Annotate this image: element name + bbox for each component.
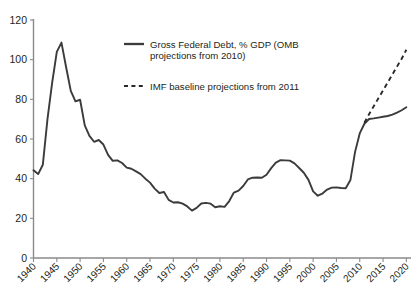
x-axis-tick-label: 1975 <box>178 260 202 284</box>
x-axis-tick-label: 1995 <box>271 260 295 284</box>
chart-legend: Gross Federal Debt, % GDP (OMBprojection… <box>124 39 299 92</box>
x-axis-tick-label: 1945 <box>38 260 62 284</box>
legend-label-gross-federal-debt-line2: projections from 2010) <box>150 50 245 61</box>
series-line-gross-federal-debt <box>34 43 407 211</box>
x-axis-tick-label: 1980 <box>201 260 225 284</box>
legend-label-imf-projection: IMF baseline projections from 2011 <box>150 81 299 92</box>
y-axis-tick-label: 120 <box>9 14 27 26</box>
x-axis-tick-label: 1940 <box>15 260 39 284</box>
x-axis-tick-label: 1985 <box>224 260 248 284</box>
x-axis-tick-label: 2000 <box>294 260 318 284</box>
series-group <box>34 43 407 211</box>
legend-label-gross-federal-debt: Gross Federal Debt, % GDP (OMB <box>150 39 299 50</box>
chart-container: 020406080100120 194019451950195519601965… <box>0 0 417 296</box>
y-axis: 020406080100120 <box>9 14 33 264</box>
x-axis-tick-label: 2015 <box>364 260 388 284</box>
y-axis-tick-label: 0 <box>21 252 27 264</box>
line-chart: 020406080100120 194019451950195519601965… <box>0 0 417 296</box>
x-axis-tick-label: 2010 <box>341 260 365 284</box>
y-axis-tick-label: 20 <box>15 212 27 224</box>
x-axis: 1940194519501955196019651970197519801985… <box>15 258 412 284</box>
y-axis-tick-label: 80 <box>15 93 27 105</box>
x-axis-tick-label: 2020 <box>387 260 411 284</box>
x-axis-tick-label: 1960 <box>108 260 132 284</box>
x-axis-tick-label: 1950 <box>61 260 85 284</box>
y-axis-tick-label: 40 <box>15 172 27 184</box>
y-axis-tick-label: 100 <box>9 53 27 65</box>
y-axis-tick-label: 60 <box>15 133 27 145</box>
x-axis-tick-label: 1965 <box>131 260 155 284</box>
x-axis-tick-label: 1955 <box>85 260 109 284</box>
x-axis-tick-label: 2005 <box>318 260 342 284</box>
x-axis-tick-label: 1970 <box>154 260 178 284</box>
x-axis-tick-label: 1990 <box>248 260 272 284</box>
